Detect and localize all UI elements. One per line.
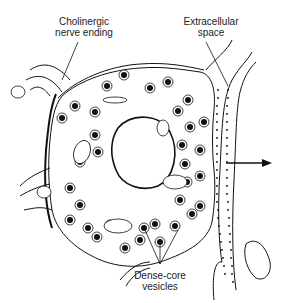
- label-line: space: [170, 27, 252, 38]
- label-line: nerve ending: [42, 27, 126, 38]
- cell-illustration: [0, 0, 284, 303]
- label-line: vesicles: [120, 281, 200, 292]
- dotted-membrane-left: [216, 89, 226, 275]
- label-line: Cholinergic: [42, 16, 126, 27]
- extracellular-space-label: Extracellular space: [170, 16, 252, 38]
- cholinergic-nerve-ending-label: Cholinergic nerve ending: [42, 16, 126, 38]
- chromaffin-cell-diagram: Cholinergic nerve ending Extracellular s…: [0, 0, 284, 303]
- mitochondria: [11, 86, 187, 233]
- right-small-cell: [245, 241, 271, 279]
- label-line: Extracellular: [170, 16, 252, 27]
- label-line: Dense-core: [120, 270, 200, 281]
- dense-core-vesicles-label: Dense-core vesicles: [120, 270, 200, 292]
